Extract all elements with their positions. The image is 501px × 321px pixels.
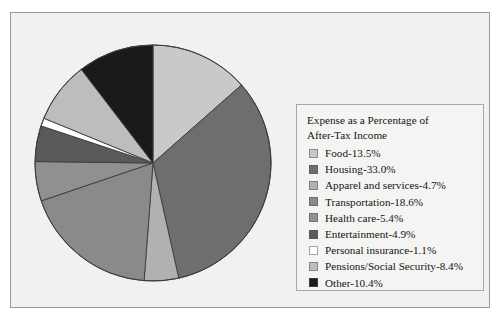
legend-swatch-icon <box>309 246 318 255</box>
legend-item: Transportation-18.6% <box>307 194 474 210</box>
figure-frame: Expense as a Percentage of After-Tax Inc… <box>10 12 490 308</box>
legend-item: Entertainment-4.9% <box>307 226 474 242</box>
legend-swatch-icon <box>309 165 318 174</box>
legend-item-label: Pensions/Social Security-8.4% <box>325 260 463 272</box>
legend-swatch-icon <box>309 181 318 190</box>
legend-item: Food-13.5% <box>307 145 474 161</box>
legend-item-label: Health care-5.4% <box>325 212 403 224</box>
legend-item-label: Personal insurance-1.1% <box>325 244 436 256</box>
legend-item-label: Entertainment-4.9% <box>325 228 415 240</box>
legend-item: Health care-5.4% <box>307 210 474 226</box>
legend-item-label: Housing-33.0% <box>325 163 396 175</box>
pie-slice-group <box>35 45 271 281</box>
legend-item-label: Transportation-18.6% <box>325 196 423 208</box>
legend-item: Personal insurance-1.1% <box>307 242 474 258</box>
legend-swatch-icon <box>309 149 318 158</box>
legend-swatch-icon <box>309 197 318 206</box>
legend-item: Apparel and services-4.7% <box>307 177 474 193</box>
legend-swatch-icon <box>309 262 318 271</box>
legend-item: Housing-33.0% <box>307 161 474 177</box>
legend-swatch-icon <box>309 230 318 239</box>
legend-swatch-icon <box>309 278 318 287</box>
legend-item-label: Other-10.4% <box>325 277 383 289</box>
legend-item: Pensions/Social Security-8.4% <box>307 258 474 274</box>
pie-chart-svg <box>29 39 277 287</box>
legend-entries: Food-13.5%Housing-33.0%Apparel and servi… <box>307 145 474 291</box>
legend-title: Expense as a Percentage of After-Tax Inc… <box>307 113 474 142</box>
legend: Expense as a Percentage of After-Tax Inc… <box>296 104 484 291</box>
legend-item: Other-10.4% <box>307 275 474 291</box>
pie-chart <box>29 39 277 287</box>
legend-item-label: Food-13.5% <box>325 147 381 159</box>
legend-swatch-icon <box>309 213 318 222</box>
legend-item-label: Apparel and services-4.7% <box>325 179 446 191</box>
